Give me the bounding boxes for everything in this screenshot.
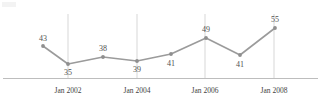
data-value-label: 49 bbox=[202, 25, 210, 34]
data-point-marker bbox=[41, 44, 45, 48]
x-axis-tick-label: Jan 2008 bbox=[261, 86, 288, 95]
x-axis-tick-labels-group: Jan 2002Jan 2004Jan 2006Jan 2008 bbox=[55, 86, 288, 95]
data-value-label: 35 bbox=[64, 68, 72, 77]
x-axis-tick-label: Jan 2004 bbox=[124, 86, 151, 95]
data-point-marker bbox=[238, 53, 242, 57]
data-point-marker bbox=[204, 36, 208, 40]
data-value-label: 41 bbox=[167, 59, 175, 68]
data-value-label: 55 bbox=[271, 15, 279, 24]
data-value-label: 41 bbox=[236, 60, 244, 69]
line-chart-svg: 4335383941494155 Jan 2002Jan 2004Jan 200… bbox=[0, 0, 320, 103]
data-point-marker bbox=[101, 55, 105, 59]
line-chart-container: 4335383941494155 Jan 2002Jan 2004Jan 200… bbox=[0, 0, 320, 103]
data-value-label: 38 bbox=[99, 44, 107, 53]
data-value-label: 39 bbox=[133, 65, 141, 74]
data-point-marker bbox=[169, 52, 173, 56]
data-point-marker bbox=[66, 62, 70, 66]
series-line-path bbox=[43, 28, 275, 64]
data-value-labels-group: 4335383941494155 bbox=[39, 15, 279, 77]
x-axis-tick-label: Jan 2002 bbox=[55, 86, 82, 95]
data-point-marker bbox=[273, 26, 277, 30]
data-value-label: 43 bbox=[39, 34, 47, 43]
data-point-marker bbox=[135, 59, 139, 63]
x-axis-tick-label: Jan 2006 bbox=[192, 86, 219, 95]
